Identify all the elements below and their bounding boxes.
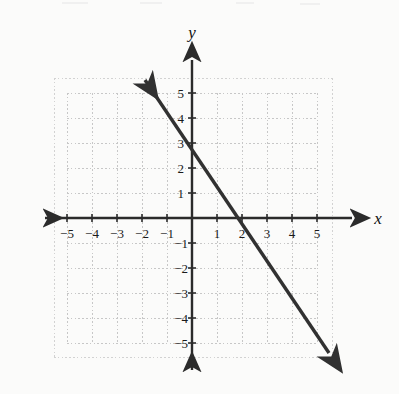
x-tick-label: −3 xyxy=(110,226,124,241)
y-tick-label: 4 xyxy=(178,111,185,126)
y-tick-label: 1 xyxy=(178,186,185,201)
x-tick-label: −5 xyxy=(60,226,74,241)
x-tick-label: 4 xyxy=(289,226,296,241)
y-tick-label: 3 xyxy=(178,136,185,151)
y-tick-label: −1 xyxy=(174,236,188,251)
scan-artifact xyxy=(140,2,162,4)
graph-figure: −5 −4 −3 −2 −1 1 2 3 4 5 5 4 3 2 1 −1 −2… xyxy=(0,0,399,394)
x-tick-label: 1 xyxy=(214,226,221,241)
axes xyxy=(45,60,352,370)
scan-artifact xyxy=(62,2,88,4)
x-tick-label: 3 xyxy=(264,226,271,241)
y-tick-label: 5 xyxy=(178,86,185,101)
x-tick-label: −1 xyxy=(160,226,174,241)
x-tick-label: −4 xyxy=(85,226,99,241)
coordinate-plane: −5 −4 −3 −2 −1 1 2 3 4 5 5 4 3 2 1 −1 −2… xyxy=(0,0,399,394)
x-tick-label: 2 xyxy=(239,226,246,241)
x-tick-label: −2 xyxy=(135,226,149,241)
plotted-line xyxy=(145,80,329,353)
y-tick-label: −3 xyxy=(174,286,188,301)
x-tick-label: 5 xyxy=(314,226,321,241)
y-tick-label: −4 xyxy=(174,311,188,326)
scan-artifact xyxy=(236,2,254,4)
x-tick-labels: −5 −4 −3 −2 −1 1 2 3 4 5 xyxy=(60,226,320,241)
y-tick-label: −5 xyxy=(174,336,188,351)
scan-artifact xyxy=(300,3,320,5)
y-axis-label: y xyxy=(186,23,196,42)
y-tick-label: −2 xyxy=(174,261,188,276)
x-axis-label: x xyxy=(373,209,382,228)
y-tick-label: 2 xyxy=(178,161,185,176)
